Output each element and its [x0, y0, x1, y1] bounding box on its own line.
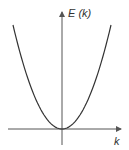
y-axis-label: E (k): [68, 7, 92, 19]
dispersion-diagram: E (k) k: [0, 0, 129, 150]
x-axis-label: k: [114, 135, 120, 147]
